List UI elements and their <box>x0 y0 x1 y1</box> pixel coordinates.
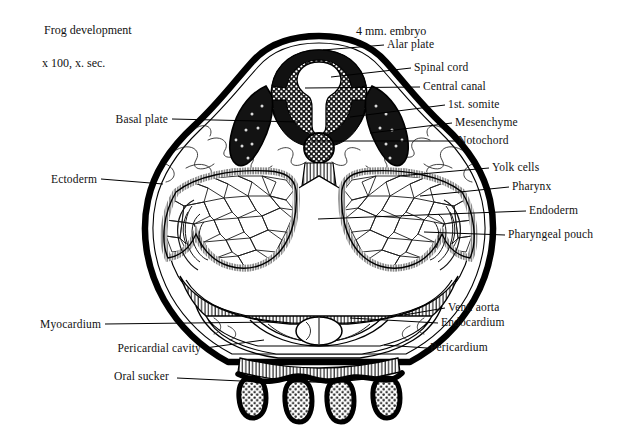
label-central-canal: Central canal <box>423 81 486 93</box>
label-spinal-cord: Spinal cord <box>414 62 468 74</box>
label-endocardium: Endocardium <box>441 317 505 329</box>
label-basal-plate: Basal plate <box>0 114 168 126</box>
label-pharynx: Pharynx <box>512 181 551 193</box>
label-pharyngeal-pouch: Pharyngeal pouch <box>508 229 593 241</box>
frog-development-figure: Frog development x 100, x. sec. 4 mm. em… <box>0 0 638 434</box>
figure-title: Frog development <box>44 24 132 36</box>
specimen-caption: 4 mm. embryo <box>356 25 426 37</box>
label-myocardium: Myocardium <box>0 319 101 331</box>
label-notochord: Notochord <box>458 135 509 147</box>
label-vent-aorta: Vent. aorta <box>448 302 499 314</box>
figure-subtitle: x 100, x. sec. <box>42 57 105 69</box>
label-yolk-cells: Yolk cells <box>492 162 539 174</box>
label-oral-sucker: Oral sucker <box>0 371 169 383</box>
label-pericardial-cavity: Pericardial cavity <box>0 343 201 355</box>
label-ectoderm: Ectoderm <box>0 174 97 186</box>
notochord <box>304 133 334 163</box>
label-1st-somite: 1st. somite <box>448 99 500 111</box>
neural-tube <box>271 50 367 147</box>
ventral-aorta <box>296 317 342 345</box>
label-alar-plate: Alar plate <box>387 39 434 51</box>
label-endoderm: Endoderm <box>529 205 578 217</box>
label-mesenchyme: Mesenchyme <box>455 117 518 129</box>
label-pericardium: Pericardium <box>430 342 488 354</box>
oral-sucker <box>238 373 402 422</box>
